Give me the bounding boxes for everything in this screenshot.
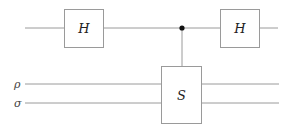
gate-s-label: S [177,88,186,103]
gate-h1-label: H [77,21,90,36]
quantum-circuit-diagram: ρ σ H S H [0,0,293,128]
wire-label-sigma: σ [14,97,22,110]
gate-h2-label: H [233,21,246,36]
gate-h2: H [221,10,260,48]
gate-h1: H [65,10,104,48]
wire-label-rho: ρ [13,78,21,91]
gate-s: S [162,67,202,124]
control-dot [179,25,184,30]
